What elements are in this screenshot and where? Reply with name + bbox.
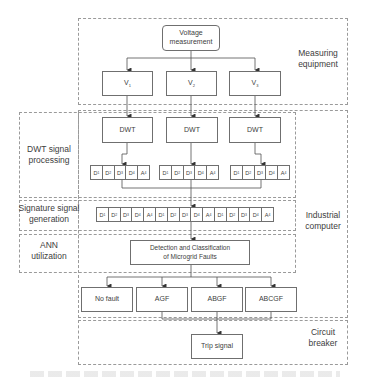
coefficient-group-2: D1 D2 D3 D4 A4 xyxy=(159,165,219,180)
coefficient-group-3: D1 D2 D3 D4 A4 xyxy=(230,165,290,180)
signature-vector: D1 D2 D3 D4 A4 D1 D2 D3 D4 A4 D1 D2 D3 D… xyxy=(96,207,274,222)
no-fault-node: No fault xyxy=(81,287,133,312)
v3-node: V3 xyxy=(229,71,281,96)
voltage-measurement-node: Voltage measurement xyxy=(162,25,220,51)
dwt-node-2: DWT xyxy=(166,117,218,143)
sig-a4: A4 xyxy=(261,207,274,222)
coefficient-group-1: D1 D2 D3 D4 A4 xyxy=(90,165,150,180)
abgf-node: ABGF xyxy=(191,287,243,312)
connector-lines xyxy=(0,0,366,381)
trip-signal-node: Trip signal xyxy=(191,334,243,359)
v1-node: V1 xyxy=(102,71,153,96)
dwt-node-3: DWT xyxy=(229,117,281,143)
agf-node: AGF xyxy=(136,287,188,312)
coeff-a4: A4 xyxy=(137,165,150,180)
dwt-node-1: DWT xyxy=(102,117,153,143)
abcgf-node: ABCGF xyxy=(245,287,297,312)
cropped-caption xyxy=(30,371,340,377)
detection-classification-node: Detection and Classification of Microgri… xyxy=(130,240,250,265)
coeff-a4: A4 xyxy=(206,165,219,180)
coeff-a4: A4 xyxy=(277,165,290,180)
v2-node: V2 xyxy=(166,71,217,96)
